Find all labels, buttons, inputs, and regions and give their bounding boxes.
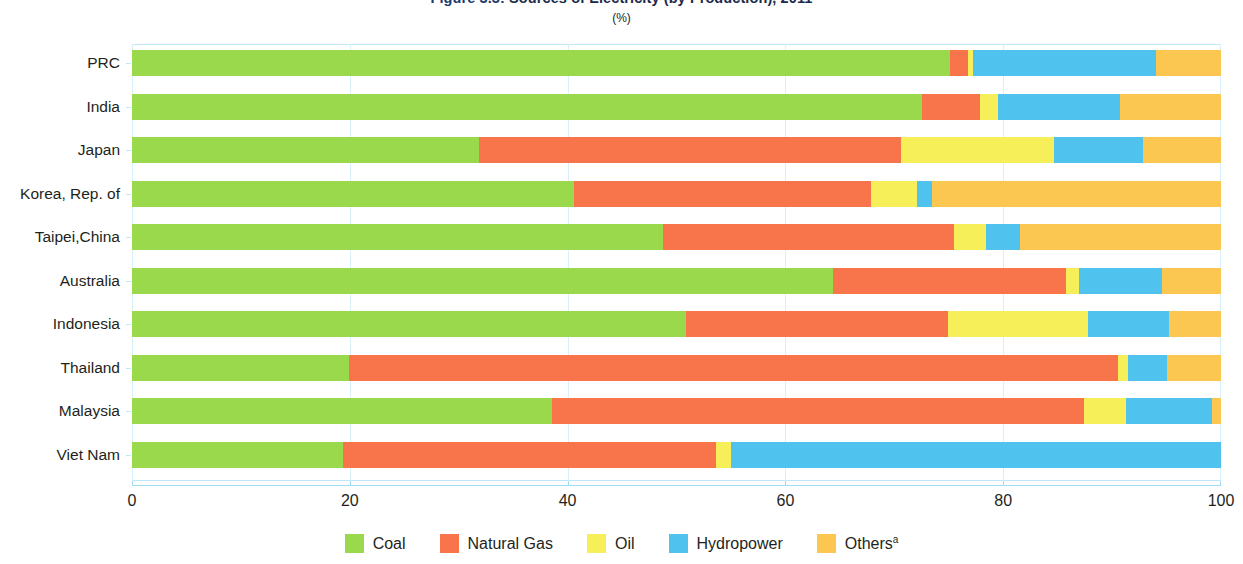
bar-segment-oil[interactable]: [1084, 398, 1126, 424]
x-axis-tick-label: 20: [341, 492, 359, 510]
bar-segment-natural-gas[interactable]: [922, 94, 981, 120]
bar-segment-others[interactable]: [1162, 268, 1221, 294]
bar-segment-coal[interactable]: [132, 94, 922, 120]
legend-swatch-coal: [345, 534, 364, 553]
bar-segment-natural-gas[interactable]: [663, 224, 954, 250]
y-axis-tick: [126, 237, 131, 238]
category-label: Indonesia: [0, 311, 120, 337]
category-label: Japan: [0, 137, 120, 163]
bar-segment-hydropower[interactable]: [1079, 268, 1162, 294]
bar-segment-coal[interactable]: [132, 268, 833, 294]
bar-segment-others[interactable]: [1212, 398, 1221, 424]
bar-segment-others[interactable]: [1156, 50, 1221, 76]
category-label: Australia: [0, 268, 120, 294]
bar-segment-others[interactable]: [1020, 224, 1221, 250]
bar-segment-hydropower[interactable]: [917, 181, 932, 207]
legend-item-oil[interactable]: Oil: [587, 534, 635, 553]
bar-segment-hydropower[interactable]: [986, 224, 1020, 250]
legend-item-others[interactable]: Othersa: [817, 534, 899, 553]
bar-segment-oil[interactable]: [954, 224, 986, 250]
legend-label-hydro: Hydropower: [697, 535, 783, 553]
legend-label-coal: Coal: [373, 535, 406, 553]
chart-area: PRCIndiaJapanKorea, Rep. ofTaipei,ChinaA…: [0, 40, 1243, 488]
bar-segment-hydropower[interactable]: [1088, 311, 1169, 337]
figure-number: Figure 3.3:: [431, 0, 505, 6]
category-label: India: [0, 94, 120, 120]
y-axis-tick: [126, 324, 131, 325]
bar-segment-natural-gas[interactable]: [479, 137, 900, 163]
plot-top-border: [132, 44, 1221, 45]
y-axis-tick: [126, 194, 131, 195]
bar-segment-natural-gas[interactable]: [574, 181, 871, 207]
bar-segment-coal[interactable]: [132, 50, 950, 76]
bar-row: India: [132, 94, 1221, 120]
stacked-bar[interactable]: [132, 94, 1221, 120]
bar-segment-others[interactable]: [1143, 137, 1221, 163]
legend-item-coal[interactable]: Coal: [345, 534, 406, 553]
bar-segment-others[interactable]: [1167, 355, 1221, 381]
bar-segment-hydropower[interactable]: [998, 94, 1120, 120]
legend-item-gas[interactable]: Natural Gas: [440, 534, 553, 553]
stacked-bar[interactable]: [132, 311, 1221, 337]
bar-segment-oil[interactable]: [901, 137, 1055, 163]
bar-segment-oil[interactable]: [1066, 268, 1079, 294]
bar-segment-natural-gas[interactable]: [343, 442, 715, 468]
category-label: Taipei,China: [0, 224, 120, 250]
bar-segment-hydropower[interactable]: [973, 50, 1156, 76]
stacked-bar[interactable]: [132, 398, 1221, 424]
category-label: Viet Nam: [0, 442, 120, 468]
bar-segment-oil[interactable]: [948, 311, 1088, 337]
bar-segment-natural-gas[interactable]: [686, 311, 947, 337]
unit-label: (%): [0, 11, 1243, 25]
stacked-bar[interactable]: [132, 224, 1221, 250]
y-axis-tick: [126, 107, 131, 108]
y-axis-tick: [126, 455, 131, 456]
bar-segment-others[interactable]: [932, 181, 1221, 207]
stacked-bar[interactable]: [132, 137, 1221, 163]
bar-segment-hydropower[interactable]: [1126, 398, 1212, 424]
legend-swatch-hydro: [669, 534, 688, 553]
category-label: PRC: [0, 50, 120, 76]
bar-segment-coal[interactable]: [132, 355, 349, 381]
bar-segment-hydropower[interactable]: [731, 442, 1221, 468]
bar-segment-natural-gas[interactable]: [552, 398, 1083, 424]
stacked-bar[interactable]: [132, 181, 1221, 207]
bar-segment-natural-gas[interactable]: [349, 355, 1118, 381]
x-axis-tick-label: 60: [776, 492, 794, 510]
stacked-bar[interactable]: [132, 355, 1221, 381]
stacked-bar[interactable]: [132, 50, 1221, 76]
legend-item-hydro[interactable]: Hydropower: [669, 534, 783, 553]
bar-segment-coal[interactable]: [132, 181, 574, 207]
legend-label-oil: Oil: [615, 535, 635, 553]
bar-segment-coal[interactable]: [132, 137, 479, 163]
x-axis-tick: [785, 481, 786, 486]
x-axis-tick-label: 0: [128, 492, 137, 510]
stacked-bar[interactable]: [132, 268, 1221, 294]
bar-segment-hydropower[interactable]: [1054, 137, 1142, 163]
legend-swatch-others: [817, 534, 836, 553]
stacked-bar[interactable]: [132, 442, 1221, 468]
legend-label-gas: Natural Gas: [468, 535, 553, 553]
x-axis-tick: [1003, 481, 1004, 486]
bar-segment-others[interactable]: [1169, 311, 1221, 337]
bar-segment-oil[interactable]: [980, 94, 997, 120]
bar-segment-coal[interactable]: [132, 398, 552, 424]
category-label: Korea, Rep. of: [0, 181, 120, 207]
bar-row: Australia: [132, 268, 1221, 294]
bar-segment-others[interactable]: [1120, 94, 1221, 120]
bar-segment-oil[interactable]: [716, 442, 731, 468]
bar-segment-hydropower[interactable]: [1128, 355, 1166, 381]
bar-segment-oil[interactable]: [871, 181, 917, 207]
bar-row: Viet Nam: [132, 442, 1221, 468]
bar-segment-natural-gas[interactable]: [833, 268, 1066, 294]
bar-row: Thailand: [132, 355, 1221, 381]
bar-row: Korea, Rep. of: [132, 181, 1221, 207]
figure-title-block: Figure 3.3: Sources of Electricity (by P…: [0, 0, 1243, 25]
x-axis-line: [132, 485, 1221, 486]
bar-segment-coal[interactable]: [132, 442, 343, 468]
bar-segment-coal[interactable]: [132, 224, 663, 250]
legend-footnote-marker: a: [893, 534, 899, 545]
bar-segment-coal[interactable]: [132, 311, 686, 337]
bar-segment-oil[interactable]: [1118, 355, 1129, 381]
bar-segment-natural-gas[interactable]: [950, 50, 969, 76]
